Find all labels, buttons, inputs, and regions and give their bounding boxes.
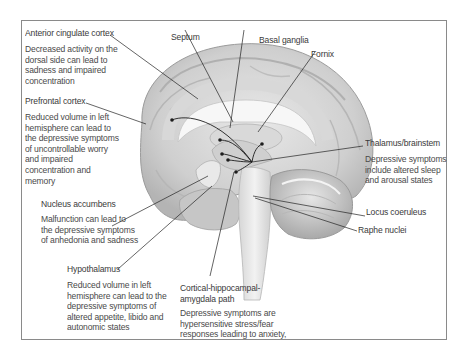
desc-prefrontal-cortex: Reduced volume in left hemisphere can le… bbox=[25, 112, 119, 186]
desc-line: of uncontrollable worry bbox=[25, 144, 119, 155]
desc-line: hemisphere can lead to bbox=[25, 123, 119, 134]
desc-cortical-hippocampal-amygdala-path: Depressive symptoms are hypersensitive s… bbox=[180, 308, 286, 340]
desc-line: the depressive symptoms bbox=[25, 133, 119, 144]
label-line: amygdala path bbox=[180, 294, 260, 305]
desc-line: Reduced volume in left bbox=[25, 112, 119, 123]
desc-line: and arousal states bbox=[365, 175, 447, 186]
desc-line: depressive symptoms of bbox=[67, 301, 167, 312]
desc-line: altered appetite, libido and bbox=[67, 312, 167, 323]
desc-line: hypersensitive stress/fear bbox=[180, 319, 286, 330]
cerebellum bbox=[270, 170, 353, 239]
label-thalamus-brainstem: Thalamus/brainstem bbox=[365, 138, 440, 149]
desc-hypothalamus: Reduced volume in left hemisphere can le… bbox=[67, 280, 167, 333]
desc-line: Decreased activity on the bbox=[25, 44, 118, 55]
label-hypothalamus: Hypothalamus bbox=[67, 264, 120, 275]
desc-anterior-cingulate-cortex: Decreased activity on the dorsal side ca… bbox=[25, 44, 118, 86]
desc-line: concentration and bbox=[25, 165, 119, 176]
label-fornix: Fornix bbox=[311, 49, 334, 60]
label-septum: Septum bbox=[171, 32, 200, 43]
desc-line: Reduced volume in left bbox=[67, 280, 167, 291]
label-prefrontal-cortex: Prefrontal cortex bbox=[25, 96, 85, 107]
desc-line: sadness and impaired bbox=[25, 65, 118, 76]
label-anterior-cingulate-cortex: Anterior cingulate cortex bbox=[25, 28, 114, 39]
desc-line: include altered sleep bbox=[365, 165, 447, 176]
brainstem bbox=[239, 167, 271, 300]
desc-line: of anhedonia and sadness bbox=[41, 235, 138, 246]
desc-line: Depressive symptoms bbox=[365, 154, 447, 165]
desc-nucleus-accumbens: Malfunction can lead to the depressive s… bbox=[41, 214, 138, 246]
desc-line: concentration bbox=[25, 76, 118, 87]
desc-line: dorsal side can lead to bbox=[25, 55, 118, 66]
desc-line: hemisphere can lead to the bbox=[67, 291, 167, 302]
label-line: Cortical-hippocampal- bbox=[180, 283, 260, 294]
desc-line: memory bbox=[25, 176, 119, 187]
label-locus-coeruleus: Locus coeruleus bbox=[366, 207, 426, 218]
desc-line: and impaired bbox=[25, 154, 119, 165]
label-raphe-nuclei: Raphe nuclei bbox=[358, 225, 406, 236]
desc-line: Malfunction can lead to bbox=[41, 214, 138, 225]
desc-line: Depressive symptoms are bbox=[180, 308, 286, 319]
desc-thalamus-brainstem: Depressive symptoms include altered slee… bbox=[365, 154, 447, 186]
desc-line: autonomic states bbox=[67, 322, 167, 333]
desc-line: responses leading to anxiety, bbox=[180, 329, 286, 340]
desc-line: the depressive symptoms bbox=[41, 225, 138, 236]
label-nucleus-accumbens: Nucleus accumbens bbox=[41, 199, 116, 210]
label-basal-ganglia: Basal ganglia bbox=[259, 35, 309, 46]
label-cortical-hippocampal-amygdala-path: Cortical-hippocampal- amygdala path bbox=[180, 283, 260, 304]
